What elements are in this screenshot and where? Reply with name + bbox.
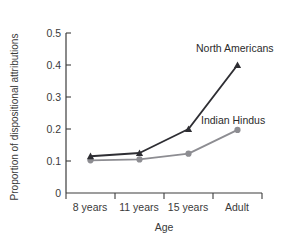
annotation-north-americans: North Americans xyxy=(196,42,274,54)
y-tick-label-3: 0.3 xyxy=(46,91,61,103)
series-markers-indian-hindus xyxy=(87,127,240,164)
chart-figure: Proportion of dispositional attributions… xyxy=(0,0,292,248)
y-tick-label-2: 0.2 xyxy=(46,123,61,135)
data-point-north-americans-3 xyxy=(234,61,241,68)
data-point-indian-hindus-3 xyxy=(234,127,240,133)
series-markers-north-americans xyxy=(87,61,241,159)
y-tick-label-0: 0 xyxy=(55,187,61,199)
y-tick-label-1: 0.1 xyxy=(46,155,61,167)
y-axis-label: Proportion of dispositional attributions xyxy=(9,34,20,201)
annotation-indian-hindus: Indian Hindus xyxy=(201,114,265,126)
series-indian-hindus xyxy=(87,127,240,164)
x-tick-label-15-years: 15 years xyxy=(168,201,208,213)
series-north-americans xyxy=(87,61,241,159)
series-line-indian-hindus xyxy=(91,130,238,160)
x-tick-label-8-years: 8 years xyxy=(73,201,107,213)
x-tick-label-11-years: 11 years xyxy=(119,201,159,213)
y-tick-label-4: 0.4 xyxy=(46,59,61,71)
series-line-north-americans xyxy=(91,65,238,156)
data-point-indian-hindus-2 xyxy=(185,151,191,157)
data-point-indian-hindus-1 xyxy=(136,156,142,162)
x-tick-label-adult: Adult xyxy=(225,201,249,213)
x-axis-label: Age xyxy=(155,221,174,233)
y-tick-label-5: 0.5 xyxy=(46,27,61,39)
line-chart: Proportion of dispositional attributions… xyxy=(0,0,292,248)
